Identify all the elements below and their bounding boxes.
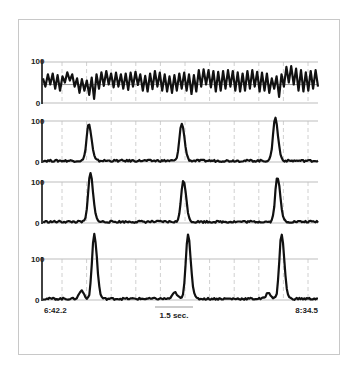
end-time-label: 8:34.5 — [295, 306, 318, 315]
panel1-tick-100: 100 — [31, 57, 45, 66]
start-time-label: 6:42.2 — [44, 306, 67, 315]
trace-line — [43, 234, 318, 300]
multi-panel-trace-chart: 100 0 100 0 100 0 100 0 6:42.2 8:34.5 1.… — [0, 0, 358, 368]
peak-trace-3 — [42, 234, 318, 301]
peak-trace-2 — [42, 173, 318, 224]
scale-bar-label: 1.5 sec. — [160, 311, 189, 320]
panel2-tick-100: 100 — [31, 117, 45, 126]
panel3-tick-0: 0 — [35, 219, 40, 228]
trace-line — [43, 173, 318, 223]
panel4-tick-100: 100 — [31, 255, 45, 264]
trace-line — [43, 66, 318, 99]
oscillating-trace — [42, 60, 318, 104]
panel4-tick-0: 0 — [35, 296, 40, 305]
panel3-tick-100: 100 — [31, 178, 45, 187]
panel2-tick-0: 0 — [35, 158, 40, 167]
trace-line — [43, 118, 318, 162]
panel1-tick-0: 0 — [36, 99, 41, 108]
peak-trace-1 — [42, 118, 318, 163]
